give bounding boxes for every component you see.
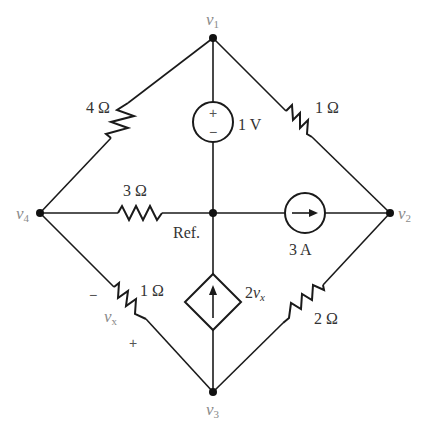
voltage-source-1v: + − [193,102,233,142]
wire-v1-to-1ohm [213,38,286,111]
label-1ohm-upper: 1 Ω [315,99,339,116]
wire-1ohm-to-v2 [312,137,390,213]
label-3ohm: 3 Ω [123,182,147,199]
wire-v1-to-4ohm [128,38,213,103]
wire-1ohm-lower-to-v3 [146,319,213,392]
node-label-v4: v4 [16,204,30,224]
node-label-ref: Ref. [173,224,200,241]
label-3a: 3 A [289,241,312,258]
vx-minus-sign: − [89,287,97,303]
label-2vx: 2vx [245,284,265,303]
circuit-diagram: + − v1 v2 v3 v4 Ref. 4 Ω 1 Ω 3 Ω 1 V 3 A… [0,0,428,432]
node-v3-dot [209,388,217,396]
wire-v4-to-1ohm-lower [40,213,114,287]
vx-label: vx [104,307,118,327]
node-label-v1: v1 [206,10,219,30]
resistor-4ohm [106,103,134,138]
label-4ohm: 4 Ω [86,99,110,116]
wire-4ohm-to-v4 [40,138,111,213]
node-label-v3: v3 [206,400,220,420]
resistor-3ohm [118,206,162,220]
resistor-1ohm-upper [286,105,312,137]
label-2ohm: 2 Ω [314,310,338,327]
node-v2-dot [386,209,394,217]
wire-2ohm-to-v3 [213,323,283,392]
label-1ohm-lower: 1 Ω [140,282,164,299]
node-label-v2: v2 [398,204,411,224]
node-v4-dot [36,209,44,217]
vx-plus-sign: + [129,335,137,351]
vsrc-plus-sign: + [209,105,217,121]
node-ref-dot [209,209,217,217]
vsrc-minus-sign: − [209,124,217,140]
current-source-3a [285,193,325,233]
node-v1-dot [209,34,217,42]
dependent-current-source [185,274,241,330]
label-1v: 1 V [238,116,262,133]
wire-v2-to-2ohm [323,213,390,285]
